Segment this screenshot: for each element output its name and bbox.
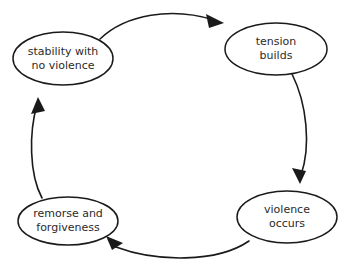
node-tension[interactable] — [225, 23, 327, 75]
diagram-canvas: stability with no violence tension build… — [0, 0, 352, 268]
node-stability[interactable] — [13, 32, 113, 85]
arrowhead-to-tension — [206, 14, 224, 28]
diagram-nodes — [13, 23, 337, 245]
edge-violence-to-remorse — [116, 241, 249, 258]
edge-stability-to-tension — [100, 14, 214, 39]
node-remorse[interactable] — [18, 197, 118, 245]
node-violence[interactable] — [237, 191, 337, 243]
arrowhead-to-violence — [292, 168, 306, 184]
edge-tension-to-violence — [292, 74, 307, 175]
cycle-diagram — [0, 0, 352, 268]
arrowhead-to-stability — [31, 97, 45, 114]
edge-remorse-to-stability — [32, 105, 42, 198]
